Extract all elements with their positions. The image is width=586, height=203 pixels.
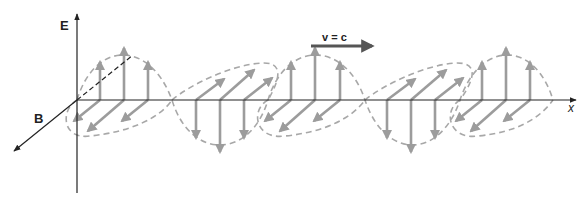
x-axis-label: x bbox=[567, 101, 575, 115]
b-axis-label: B bbox=[34, 111, 43, 126]
b-axis bbox=[14, 100, 77, 151]
axes bbox=[14, 14, 576, 193]
em-wave-diagram: E B x v = c bbox=[0, 0, 586, 203]
e-axis-label: E bbox=[60, 18, 69, 33]
velocity-label: v = c bbox=[322, 31, 347, 43]
